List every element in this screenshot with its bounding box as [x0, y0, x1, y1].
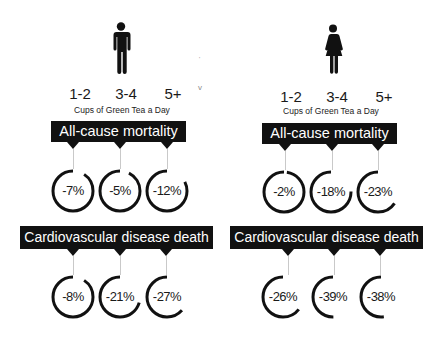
- pointer-icon: [326, 144, 338, 151]
- women-cardio-ring-2: -39%: [310, 274, 356, 320]
- pointer-icon: [161, 142, 173, 149]
- percent-value: -39%: [310, 274, 356, 320]
- percent-value: -38%: [358, 274, 404, 320]
- men-cardio-ring-1: -8%: [50, 274, 96, 320]
- pointer-icon: [374, 249, 386, 256]
- men-cups-5plus: 5+: [158, 85, 188, 102]
- women-all-cause-ring-3: -23%: [355, 169, 401, 215]
- pointer-icon: [114, 142, 126, 149]
- men-all-cause-ring-2: -5%: [97, 168, 143, 214]
- women-cups-5plus: 5+: [369, 88, 399, 105]
- pointer-icon: [67, 142, 79, 149]
- women-all-cause-title: All-cause mortality: [262, 123, 397, 144]
- women-cardio-ring-3: -38%: [358, 274, 404, 320]
- connector-line: [167, 149, 168, 169]
- connector-line: [73, 149, 74, 169]
- connector-line: [120, 256, 121, 275]
- men-all-cause-ring-3: -12%: [144, 168, 190, 214]
- women-all-cause-ring-1: -2%: [261, 169, 307, 215]
- woman-icon: [322, 24, 344, 74]
- men-cardio-title: Cardiovascular disease death: [20, 226, 213, 249]
- percent-value: -7%: [50, 168, 96, 214]
- women-cups-caption: Cups of Green Tea a Day: [261, 106, 401, 116]
- men-cardio-ring-2: -21%: [97, 274, 143, 320]
- women-cardio-ring-1: -26%: [260, 274, 306, 320]
- men-all-cause-ring-1: -7%: [50, 168, 96, 214]
- percent-value: -8%: [50, 274, 96, 320]
- men-cardio-ring-3: -27%: [144, 274, 190, 320]
- percent-value: -26%: [260, 274, 306, 320]
- women-cups-1-2: 1-2: [276, 88, 306, 105]
- percent-value: -5%: [97, 168, 143, 214]
- connector-line: [120, 149, 121, 169]
- connector-line: [166, 256, 167, 275]
- connector-line: [380, 256, 381, 275]
- connector-line: [73, 256, 74, 275]
- percent-value: -2%: [261, 169, 307, 215]
- men-cups-3-4: 3-4: [111, 85, 141, 102]
- men-all-cause-title: All-cause mortality: [51, 121, 186, 142]
- percent-value: -23%: [355, 169, 401, 215]
- pointer-icon: [282, 249, 294, 256]
- connector-line: [334, 256, 335, 275]
- man-icon: [111, 22, 131, 74]
- pointer-icon: [372, 144, 384, 151]
- connector-line: [288, 256, 289, 275]
- women-cardio-title: Cardiovascular disease death: [230, 226, 423, 249]
- percent-value: -21%: [97, 274, 143, 320]
- pointer-icon: [67, 249, 79, 256]
- percent-value: -27%: [144, 274, 190, 320]
- men-cups-1-2: 1-2: [65, 85, 95, 102]
- pointer-icon: [114, 249, 126, 256]
- percent-value: -12%: [144, 168, 190, 214]
- percent-value: -18%: [308, 169, 354, 215]
- pointer-icon: [279, 144, 291, 151]
- connector-line: [378, 151, 379, 170]
- men-cups-caption: Cups of Green Tea a Day: [52, 105, 192, 115]
- stray-mark: ': [199, 56, 200, 62]
- connector-line: [332, 151, 333, 170]
- women-cups-3-4: 3-4: [322, 88, 352, 105]
- stray-mark: v: [198, 83, 202, 92]
- connector-line: [285, 151, 286, 170]
- pointer-icon: [328, 249, 340, 256]
- women-all-cause-ring-2: -18%: [308, 169, 354, 215]
- pointer-icon: [160, 249, 172, 256]
